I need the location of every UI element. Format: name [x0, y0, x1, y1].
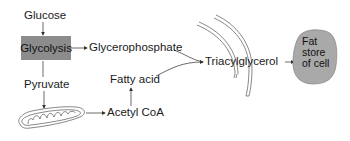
node-glycolysis: Glycolysis [21, 36, 71, 60]
node-fat-store: Fat store of cell [302, 36, 329, 69]
node-acetyl-coa: Acetyl CoA [107, 107, 164, 119]
node-glycolysis-label: Glycolysis [20, 42, 72, 54]
node-fatty-acid: Fatty acid [110, 74, 160, 86]
metabolic-pathway-diagram: Glucose Glycolysis Glycerophosphate Pyru… [0, 0, 350, 141]
fat-store-line-3: of cell [302, 58, 329, 69]
node-glycerophosphate: Glycerophosphate [89, 42, 182, 54]
node-pyruvate: Pyruvate [24, 79, 69, 91]
curve-fattyacid-tag [156, 62, 203, 76]
mitochondrion-icon [19, 107, 85, 129]
node-triacylglycerol: Triacylglycerol [205, 56, 278, 68]
node-glucose: Glucose [24, 10, 66, 22]
